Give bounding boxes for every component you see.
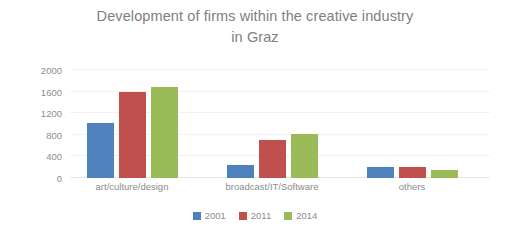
- legend-swatch-icon-2011: [239, 212, 247, 220]
- bar-2011-1[interactable]: [119, 92, 146, 178]
- bar-2011-2[interactable]: [259, 140, 286, 178]
- x-axis-label-1: art/culture/design: [62, 181, 202, 192]
- legend-swatch-icon-2001: [193, 212, 201, 220]
- bar-2014-1[interactable]: [151, 87, 178, 178]
- bar-2001-1[interactable]: [87, 123, 114, 178]
- y-tick-label-0: 0: [14, 173, 62, 184]
- chart-legend: 200120112014: [0, 211, 510, 221]
- bar-2014-2[interactable]: [291, 134, 318, 178]
- y-tick-label-1600: 1600: [14, 86, 62, 97]
- legend-item-2001[interactable]: 2001: [193, 211, 226, 221]
- legend-swatch-icon-2014: [284, 212, 292, 220]
- legend-item-2011[interactable]: 2011: [239, 211, 271, 221]
- legend-label-2001: 2001: [205, 211, 226, 221]
- y-tick-label-2000: 2000: [14, 65, 62, 76]
- y-tick-label-1200: 1200: [14, 108, 62, 119]
- bar-2011-3[interactable]: [399, 167, 426, 178]
- bar-chart: Development of firms within the creative…: [0, 0, 510, 241]
- legend-label-2014: 2014: [296, 211, 317, 221]
- x-axis-label-3: others: [342, 181, 482, 192]
- y-axis-tick-labels: 0400800120016002000: [14, 70, 62, 178]
- plot-wrapper: 0400800120016002000 art/culture/designbr…: [0, 0, 510, 241]
- legend-label-2011: 2011: [251, 211, 271, 221]
- bar-2001-3[interactable]: [367, 167, 394, 178]
- x-axis-category-labels: art/culture/designbroadcast/IT/Softwareo…: [70, 181, 490, 197]
- y-tick-label-800: 800: [14, 129, 62, 140]
- x-axis-label-2: broadcast/IT/Software: [202, 181, 342, 192]
- bars-layer: [70, 70, 490, 178]
- y-tick-label-400: 400: [14, 151, 62, 162]
- bar-2014-3[interactable]: [431, 170, 458, 178]
- bar-2001-2[interactable]: [227, 165, 254, 178]
- legend-item-2014[interactable]: 2014: [284, 211, 317, 221]
